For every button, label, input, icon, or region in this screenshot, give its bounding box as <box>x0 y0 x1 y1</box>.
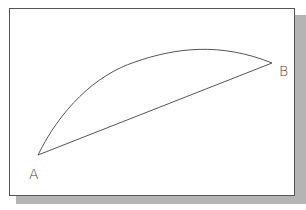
point-label-a: A <box>29 167 39 181</box>
point-label-b: B <box>279 64 288 78</box>
straight-line-a-to-b <box>38 63 272 155</box>
arc-chord-drawing <box>0 0 306 210</box>
curved-arc-a-to-b <box>38 49 272 155</box>
